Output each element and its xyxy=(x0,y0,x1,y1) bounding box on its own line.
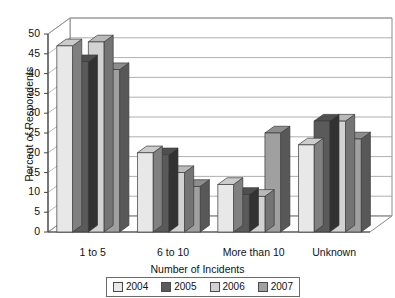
legend-item-2006: 2006 xyxy=(210,282,245,292)
bar-2004-Unknown xyxy=(298,138,323,232)
legend-label-2006: 2006 xyxy=(223,282,245,292)
chart-legend: 2004200520062007 xyxy=(106,277,300,297)
y-tick-30: 30 xyxy=(14,107,40,118)
y-tick-10: 10 xyxy=(14,186,40,197)
plot-area xyxy=(42,14,382,238)
y-tick-25: 25 xyxy=(14,127,40,138)
legend-swatch-2006 xyxy=(210,282,220,292)
y-axis-title: Percent of Respondents xyxy=(23,39,35,209)
x-tick-Unknown: Unknown xyxy=(274,246,394,258)
legend-swatch-2007 xyxy=(258,282,268,292)
y-tick-40: 40 xyxy=(14,68,40,79)
bar-2004-1-to-5 xyxy=(57,39,82,232)
legend-swatch-2005 xyxy=(161,282,171,292)
bar-chart: Percent of Respondents 05101520253035404… xyxy=(0,0,395,298)
legend-swatch-2004 xyxy=(113,282,123,292)
y-tick-5: 5 xyxy=(14,206,40,217)
bar-2004-More-than-10 xyxy=(218,178,243,232)
y-tick-45: 45 xyxy=(14,48,40,59)
legend-item-2005: 2005 xyxy=(161,282,196,292)
bar-2004-6-to-10 xyxy=(137,146,162,232)
plot-canvas xyxy=(42,14,382,238)
y-tick-35: 35 xyxy=(14,87,40,98)
legend-label-2004: 2004 xyxy=(126,282,148,292)
legend-item-2007: 2007 xyxy=(258,282,293,292)
legend-item-2004: 2004 xyxy=(113,282,148,292)
y-tick-0: 0 xyxy=(14,226,40,237)
x-axis-title: Number of Incidents xyxy=(0,263,395,275)
legend-label-2005: 2005 xyxy=(174,282,196,292)
y-tick-15: 15 xyxy=(14,167,40,178)
y-tick-50: 50 xyxy=(14,28,40,39)
legend-label-2007: 2007 xyxy=(271,282,293,292)
y-tick-20: 20 xyxy=(14,147,40,158)
